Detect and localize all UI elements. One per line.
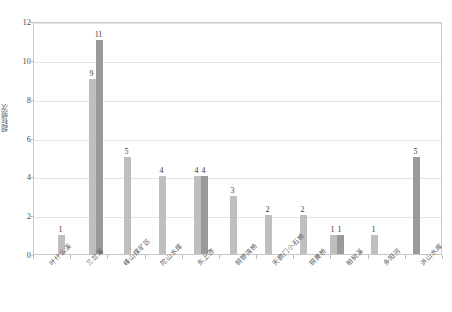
bar-value-label: 1 <box>363 226 385 234</box>
x-tick-mark <box>293 255 294 259</box>
x-tick-mark <box>368 255 369 259</box>
bar <box>201 176 208 254</box>
y-tick-label: 8 <box>7 96 31 104</box>
bar <box>89 79 96 254</box>
bar-value-label: 5 <box>405 148 427 156</box>
bar-value-label: 3 <box>222 187 244 195</box>
bar-value-label: 2 <box>292 206 314 214</box>
bar <box>413 157 420 254</box>
bar <box>124 157 131 254</box>
bar <box>371 235 378 254</box>
bar <box>265 215 272 254</box>
bar-value-label: 11 <box>88 31 110 39</box>
x-tick-mark <box>33 255 34 259</box>
plot-area <box>33 22 442 255</box>
x-tick-mark <box>182 255 183 259</box>
y-tick-label: 10 <box>7 57 31 65</box>
bar-value-label: 1 <box>329 226 351 234</box>
x-tick-mark <box>442 255 443 259</box>
x-tick-mark <box>256 255 257 259</box>
bar <box>194 176 201 254</box>
bar <box>337 235 344 254</box>
bar-value-label: 4 <box>151 167 173 175</box>
x-tick-mark <box>405 255 406 259</box>
y-tick-label: 0 <box>7 251 31 259</box>
x-tick-mark <box>330 255 331 259</box>
x-tick-mark <box>145 255 146 259</box>
y-axis: 024681012 <box>0 0 31 312</box>
bar <box>330 235 337 254</box>
y-tick-label: 12 <box>7 18 31 26</box>
y-tick-label: 2 <box>7 212 31 220</box>
bar-value-label: 5 <box>116 148 138 156</box>
y-tick-label: 4 <box>7 173 31 181</box>
bar-value-label: 2 <box>257 206 279 214</box>
bar-value-label: 9 <box>81 70 103 78</box>
y-tick-label: 6 <box>7 135 31 143</box>
bar-value-label: 1 <box>50 226 72 234</box>
gridline <box>34 23 441 24</box>
bar <box>230 196 237 254</box>
x-tick-mark <box>219 255 220 259</box>
x-tick-mark <box>70 255 71 259</box>
bar-value-label: 4 <box>193 167 215 175</box>
bar <box>159 176 166 254</box>
bar-chart: 超标频次 024681012 叶什么溪三岔溪峰山煤矿区陀山水库东上游铜锣湾桥天鹅… <box>0 0 452 312</box>
x-tick-mark <box>107 255 108 259</box>
